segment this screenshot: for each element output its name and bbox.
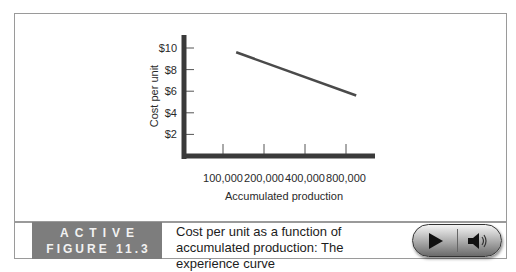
active-figure-tag: ACTIVE FIGURE 11.3 (32, 222, 162, 259)
y-tick-label: $4 (165, 107, 177, 119)
y-tick-label: $2 (165, 128, 177, 140)
tag-line-active: ACTIVE (32, 225, 162, 241)
experience-curve-line (236, 52, 356, 95)
speaker-icon (467, 232, 491, 250)
tag-line-figure-number: FIGURE 11.3 (32, 241, 162, 257)
figure-caption: Cost per unit as a function of accumulat… (176, 224, 406, 272)
x-tick-label: 400,000 (285, 172, 325, 184)
y-axis-label: Cost per unit (148, 65, 160, 127)
y-tick-label: $6 (165, 85, 177, 97)
x-axis-label: Accumulated production (225, 190, 343, 202)
experience-curve-chart: $2$4$6$8$10 100,000200,000400,000800,000… (0, 0, 516, 222)
x-tick-label: 200,000 (244, 172, 284, 184)
y-tick-label: $8 (165, 64, 177, 76)
x-tick-label: 800,000 (326, 172, 366, 184)
play-icon (426, 232, 444, 250)
audio-button[interactable] (458, 225, 502, 256)
play-button[interactable] (413, 225, 457, 256)
y-tick-label: $10 (159, 42, 177, 54)
x-tick-label: 100,000 (203, 172, 243, 184)
media-controls (412, 224, 502, 257)
